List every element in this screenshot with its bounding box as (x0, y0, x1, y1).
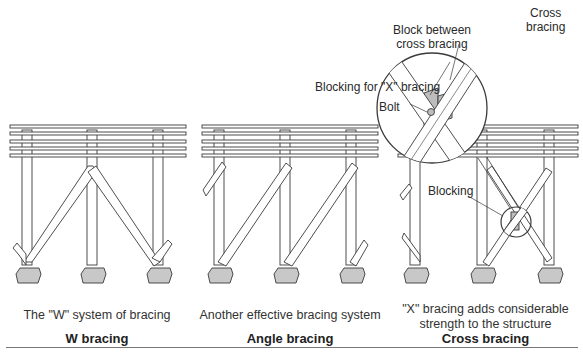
title-cross: Cross bracing (388, 331, 583, 346)
caption-w: The "W" system of bracing (0, 308, 194, 323)
callout-cross-bracing-line1: Cross (526, 6, 565, 20)
caption-angle: Another effective bracing system (188, 308, 392, 323)
callout-blocking-x: Blocking for "X" bracing (315, 80, 440, 94)
caption-cross-line2: strength to the structure (388, 317, 583, 332)
callout-bolt: Bolt (379, 100, 400, 114)
callout-block-between-line1: Block between (393, 23, 471, 37)
callout-cross-bracing: Cross bracing (526, 6, 565, 34)
title-w: W bracing (0, 331, 194, 346)
bottom-divider (6, 347, 578, 348)
callout-block-between: Block between cross bracing (393, 23, 471, 51)
callout-block-between-line2: cross bracing (393, 37, 471, 51)
title-angle: Angle bracing (188, 331, 392, 346)
caption-cross-line1: "X" bracing adds considerable (388, 302, 583, 317)
caption-cross: "X" bracing adds considerable strength t… (388, 302, 583, 332)
callout-cross-bracing-line2: bracing (526, 20, 565, 34)
w-bracing-figure (10, 125, 186, 283)
callout-blocking: Blocking (428, 184, 473, 198)
angle-bracing-figure (202, 125, 378, 283)
